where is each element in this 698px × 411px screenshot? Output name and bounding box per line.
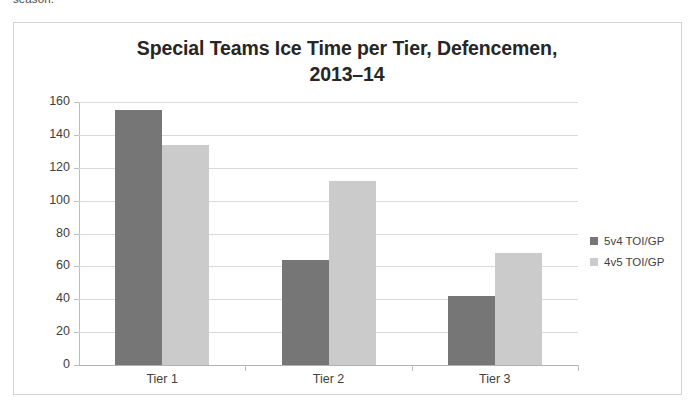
gridline (79, 365, 578, 366)
x-axis-label-tier-1: Tier 1 (102, 372, 222, 386)
chart-title-line-2: 2013–14 (72, 61, 622, 87)
y-axis-tick-mark (74, 365, 79, 366)
x-axis-label-tier-2: Tier 2 (269, 372, 389, 386)
legend-item-5v4[interactable]: 5v4 TOI/GP (590, 235, 682, 247)
y-axis-tick-mark (74, 266, 79, 267)
y-axis-tick-label: 120 (18, 161, 70, 174)
bar-tier-2-5v4 (282, 260, 329, 365)
chart-title-line-1: Special Teams Ice Time per Tier, Defence… (137, 37, 557, 59)
plot-area (79, 102, 578, 365)
chart-title: Special Teams Ice Time per Tier, Defence… (72, 35, 622, 87)
bar-tier-1-5v4 (115, 110, 162, 365)
y-axis-tick-label: 160 (18, 95, 70, 108)
y-axis-tick-mark (74, 135, 79, 136)
x-axis-tick-mark (412, 365, 413, 371)
legend-swatch-icon (590, 237, 598, 245)
x-axis-tick-mark (245, 365, 246, 371)
y-axis-tick-mark (74, 102, 79, 103)
y-axis-tick-label: 80 (18, 227, 70, 240)
y-axis-tick-mark (74, 332, 79, 333)
bar-tier-2-4v5 (329, 181, 376, 365)
y-axis-tick-label: 0 (18, 358, 70, 371)
cropped-text-above-figure: season. (13, 0, 54, 4)
chart-legend: 5v4 TOI/GP4v5 TOI/GP (590, 235, 682, 277)
y-axis-tick-label: 60 (18, 259, 70, 272)
y-axis-tick-label: 20 (18, 325, 70, 338)
y-axis-labels: 020406080100120140160 (14, 23, 70, 394)
x-axis-tick-mark (578, 365, 579, 371)
legend-label: 4v5 TOI/GP (604, 256, 664, 268)
legend-swatch-icon (590, 258, 598, 266)
legend-item-4v5[interactable]: 4v5 TOI/GP (590, 256, 682, 268)
y-axis-tick-mark (74, 168, 79, 169)
x-axis-label-tier-3: Tier 3 (435, 372, 555, 386)
y-axis-tick-label: 140 (18, 128, 70, 141)
bar-tier-3-4v5 (495, 253, 542, 365)
y-axis-tick-mark (74, 299, 79, 300)
bar-tier-3-5v4 (448, 296, 495, 365)
y-axis-tick-label: 40 (18, 292, 70, 305)
legend-label: 5v4 TOI/GP (604, 235, 664, 247)
bar-tier-1-4v5 (162, 145, 209, 365)
gridline (79, 102, 578, 103)
y-axis-tick-mark (74, 201, 79, 202)
y-axis-tick-mark (74, 234, 79, 235)
chart-container: Special Teams Ice Time per Tier, Defence… (13, 22, 682, 395)
y-axis-tick-label: 100 (18, 194, 70, 207)
